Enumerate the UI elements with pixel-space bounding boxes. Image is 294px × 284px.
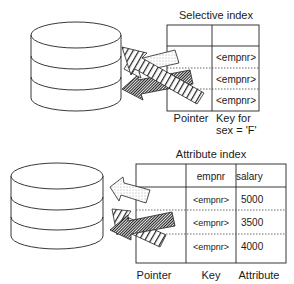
selective-key-cell: <empnr>	[216, 95, 256, 106]
attribute-header-key: empnr	[197, 171, 226, 182]
database-cylinder-icon-bottom	[11, 163, 103, 249]
selective-key-label: Key for	[216, 112, 251, 124]
selective-pointer-label: Pointer	[174, 112, 209, 124]
selective-key-cell: <empnr>	[216, 74, 256, 85]
attribute-key-label: Key	[202, 269, 221, 281]
attribute-index-title: Attribute index	[176, 148, 247, 160]
database-cylinder-icon-top	[31, 22, 121, 111]
attribute-value-cell: 5000	[241, 194, 264, 205]
index-diagram: Selective index <empnr> <empnr> <empnr> …	[0, 0, 294, 284]
attribute-key-cell: <empnr>	[193, 195, 229, 205]
attribute-value-cell: 3500	[241, 217, 264, 228]
selective-key-cell: <empnr>	[216, 52, 256, 63]
attribute-pointer-label: Pointer	[137, 269, 172, 281]
selective-index-title: Selective index	[179, 9, 253, 21]
attribute-value-cell: 4000	[241, 241, 264, 252]
attribute-key-cell: <empnr>	[193, 218, 229, 228]
attribute-header-attribute: salary	[236, 171, 263, 182]
attribute-attribute-label: Attribute	[239, 269, 280, 281]
selective-key-label-condition: sex = 'F'	[216, 124, 257, 136]
attribute-key-cell: <empnr>	[193, 242, 229, 252]
